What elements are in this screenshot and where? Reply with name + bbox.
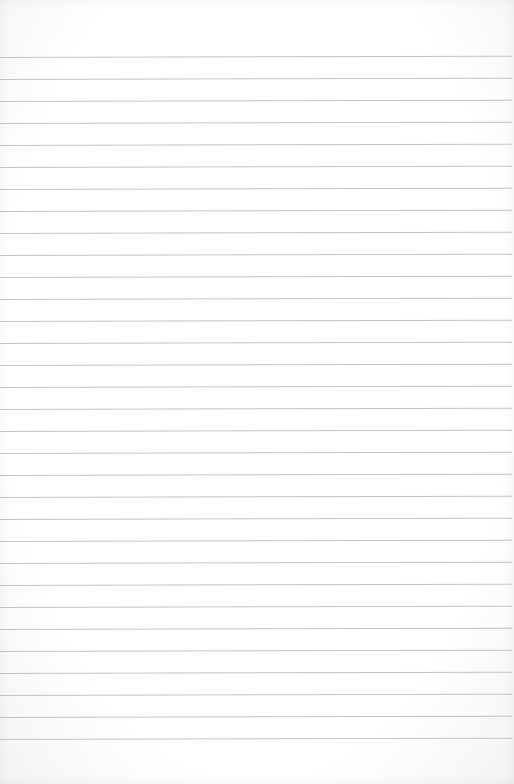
ruled-line: [0, 474, 512, 476]
ruled-line: [0, 254, 512, 256]
ruled-line: [0, 122, 512, 124]
ruled-line: [0, 320, 512, 322]
ruled-line: [0, 496, 512, 498]
ruled-line: [0, 518, 512, 520]
ruled-line: [0, 232, 512, 234]
ruled-line: [0, 276, 512, 278]
ruled-line: [0, 452, 512, 454]
ruled-line: [0, 584, 512, 586]
ruled-line: [0, 738, 512, 740]
ruled-line: [0, 210, 512, 212]
ruled-line: [0, 100, 512, 102]
ruled-line: [0, 298, 512, 300]
ruled-line: [0, 606, 512, 608]
ruled-line: [0, 408, 512, 410]
ruled-line: [0, 716, 512, 718]
ruled-line: [0, 166, 512, 168]
ruled-line: [0, 144, 512, 146]
ruled-line: [0, 56, 512, 58]
ruled-line: [0, 386, 512, 388]
ruled-line: [0, 540, 512, 542]
ruled-line: [0, 562, 512, 564]
ruled-line: [0, 694, 512, 696]
ruled-line: [0, 78, 512, 80]
ruled-line: [0, 188, 512, 190]
ruled-line: [0, 364, 512, 366]
ruled-line: [0, 650, 512, 652]
ruled-line: [0, 342, 512, 344]
ruled-lines: [0, 0, 514, 784]
ruled-line: [0, 430, 512, 432]
ruled-line: [0, 672, 512, 674]
lined-paper-sheet: [0, 0, 514, 784]
ruled-line: [0, 628, 512, 630]
